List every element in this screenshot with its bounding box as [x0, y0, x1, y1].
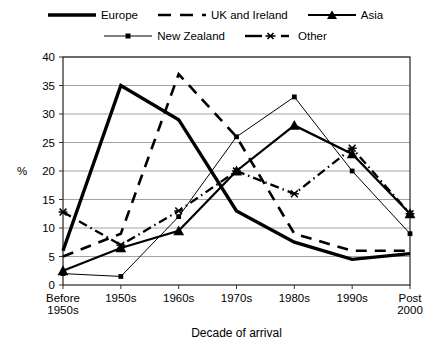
data-point-marker — [234, 134, 239, 139]
y-axis-tick-label: 15 — [42, 194, 55, 206]
x-axis-tick-label: 1990s — [336, 292, 368, 304]
y-axis-tick-label: 35 — [42, 80, 55, 92]
x-axis-tick-label: 1950s — [105, 292, 137, 304]
data-point-marker — [292, 95, 297, 100]
legend-item-uk-and-ireland: UK and Ireland — [156, 9, 288, 21]
y-axis-tick-label: 10 — [42, 222, 55, 234]
dashed-line-icon — [156, 9, 208, 21]
legend-row-1: Europe UK and Ireland Asia — [0, 4, 429, 25]
x-axis-tick-label: Post — [398, 292, 422, 304]
x-axis-tick-label: 1970s — [221, 292, 253, 304]
triangle-marker-line-icon — [306, 9, 358, 21]
data-point-marker — [289, 120, 300, 130]
x-axis-tick-label: 1950s — [47, 304, 79, 316]
x-axis: Before1950s1950s1960s1970s1980s1990sPost… — [46, 285, 423, 316]
data-point-marker — [290, 190, 299, 197]
legend-label-europe: Europe — [101, 9, 138, 21]
y-axis-tick-label: 25 — [42, 137, 55, 149]
data-point-marker — [174, 208, 183, 215]
solid-thick-line-icon — [46, 9, 98, 21]
legend-label-uk-and-ireland: UK and Ireland — [211, 9, 288, 21]
legend-label-asia: Asia — [361, 9, 383, 21]
series-other — [59, 145, 415, 249]
series-line — [63, 125, 410, 270]
x-axis-tick-label: 1960s — [163, 292, 195, 304]
legend-item-europe: Europe — [46, 9, 138, 21]
series-line — [63, 148, 410, 245]
y-axis-tick-label: 5 — [49, 251, 55, 263]
x-axis-tick-label: 1980s — [279, 292, 311, 304]
y-axis-tick-label: 0 — [49, 279, 55, 291]
chart-plot-area: 0510152025303540Before1950s1950s1960s197… — [0, 40, 429, 340]
y-axis-tick-label: 20 — [42, 165, 55, 177]
x-axis-title: Decade of arrival — [191, 326, 282, 340]
legend-item-asia: Asia — [306, 9, 383, 21]
data-point-marker — [408, 231, 413, 236]
x-axis-tick-label: Before — [46, 292, 80, 304]
data-point-marker — [176, 214, 181, 219]
x-axis-tick-label: 2000 — [397, 304, 423, 316]
y-axis-title: % — [17, 165, 27, 177]
y-axis-tick-label: 40 — [42, 51, 55, 63]
chart-container: Europe UK and Ireland Asia — [0, 0, 429, 340]
chart-gridlines: 0510152025303540 — [42, 51, 410, 291]
data-point-marker — [350, 169, 355, 174]
y-axis-tick-label: 30 — [42, 108, 55, 120]
data-point-marker — [118, 274, 123, 279]
data-point-marker — [61, 271, 66, 276]
